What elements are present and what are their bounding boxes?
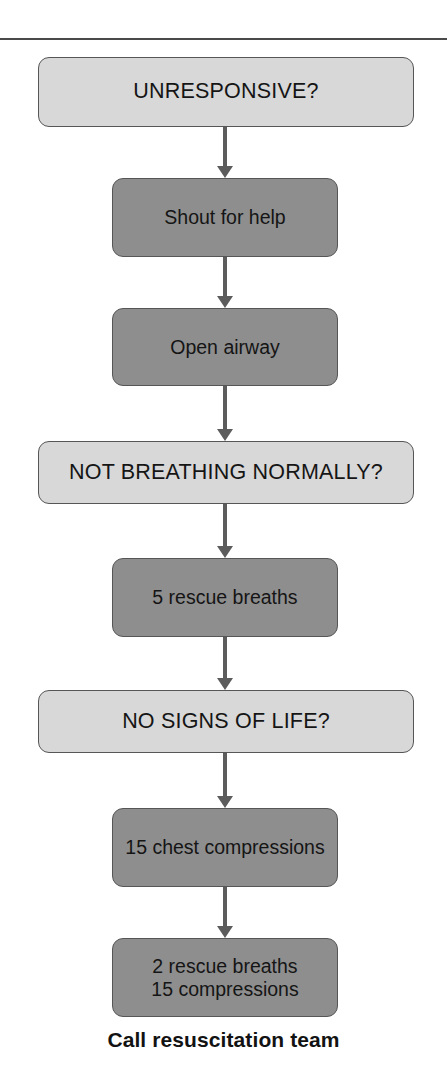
flow-node-label-line1: 2 rescue breaths [152, 955, 297, 977]
flow-node-label: Open airway [113, 336, 337, 359]
flow-node-label: UNRESPONSIVE? [39, 79, 413, 104]
flowchart-page: UNRESPONSIVE? Shout for help Open airway… [0, 0, 447, 1085]
flow-node-label-line2: 15 compressions [119, 978, 331, 1001]
flow-node-2-breaths-15-compressions[interactable]: 2 rescue breaths 15 compressions [112, 938, 338, 1017]
flow-node-label: 15 chest compressions [113, 836, 337, 859]
flow-node-15-chest-compressions[interactable]: 15 chest compressions [112, 808, 338, 887]
flow-node-5-rescue-breaths[interactable]: 5 rescue breaths [112, 558, 338, 637]
flow-node-not-breathing-normally[interactable]: NOT BREATHING NORMALLY? [38, 441, 414, 504]
flow-node-label-group: 2 rescue breaths 15 compressions [113, 955, 337, 1001]
flow-node-shout-for-help[interactable]: Shout for help [112, 178, 338, 257]
flow-node-no-signs-of-life[interactable]: NO SIGNS OF LIFE? [38, 690, 414, 753]
flow-node-label: NOT BREATHING NORMALLY? [39, 460, 413, 485]
flow-node-unresponsive[interactable]: UNRESPONSIVE? [38, 57, 414, 127]
flow-node-label: Shout for help [113, 206, 337, 229]
flowchart-canvas: UNRESPONSIVE? Shout for help Open airway… [0, 0, 447, 1085]
flow-node-label: 5 rescue breaths [113, 586, 337, 609]
flow-node-label: NO SIGNS OF LIFE? [39, 709, 413, 734]
flowchart-caption: Call resuscitation team [0, 1028, 447, 1052]
flow-node-open-airway[interactable]: Open airway [112, 308, 338, 386]
